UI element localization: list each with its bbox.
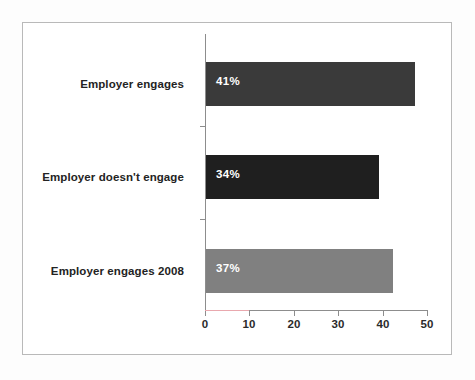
value-tick-label-0: 0: [185, 318, 225, 330]
value-tick-label-30: 30: [318, 318, 358, 330]
bar-value-label-employer-doesnt-engage: 34%: [216, 168, 240, 180]
value-tick-label-20: 20: [274, 318, 314, 330]
category-tick-1: [200, 126, 205, 127]
category-tick-2: [200, 219, 205, 220]
value-tick-30: [338, 311, 339, 316]
bar-employer-doesnt-engage[interactable]: 34%: [206, 155, 379, 199]
value-tick-0: [205, 311, 206, 316]
value-tick-50: [427, 311, 428, 316]
bar-employer-engages[interactable]: 41%: [206, 62, 415, 106]
plot-area: 0 10 20 30 40 50 Employer engages Employ…: [0, 0, 475, 380]
value-tick-40: [383, 311, 384, 316]
value-tick-label-50: 50: [407, 318, 447, 330]
category-label-employer-engages-2008: Employer engages 2008: [0, 265, 184, 277]
value-tick-label-10: 10: [229, 318, 269, 330]
value-axis-tint-artifact: [205, 310, 249, 311]
chart-figure: 0 10 20 30 40 50 Employer engages Employ…: [0, 0, 475, 380]
value-tick-label-40: 40: [363, 318, 403, 330]
value-tick-10: [249, 311, 250, 316]
bar-value-label-employer-engages: 41%: [216, 75, 240, 87]
value-tick-20: [294, 311, 295, 316]
category-label-employer-engages: Employer engages: [0, 78, 184, 90]
category-label-employer-doesnt-engage: Employer doesn't engage: [0, 171, 184, 183]
bar-employer-engages-2008[interactable]: 37%: [206, 249, 393, 293]
bar-value-label-employer-engages-2008: 37%: [216, 262, 240, 274]
